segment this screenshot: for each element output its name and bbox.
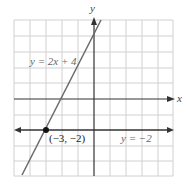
x-axis-label: x: [177, 92, 182, 104]
line-label-minus-2: y = −2: [121, 132, 152, 144]
y-axis-label: y: [90, 2, 95, 14]
line-label-2x-plus-4: y = 2x + 4: [30, 55, 77, 67]
intersection-label: (−3, −2): [49, 132, 85, 144]
y-axis: [91, 17, 97, 176]
coordinate-plane: [0, 0, 189, 187]
